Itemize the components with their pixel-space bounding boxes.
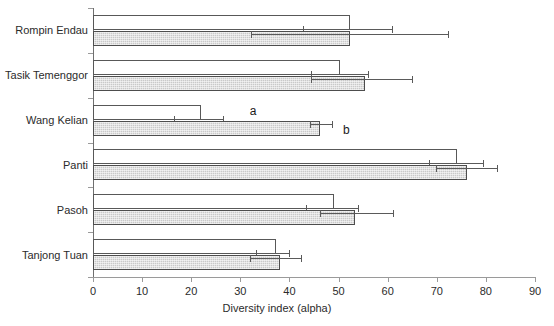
- error-bar-cap: [301, 255, 302, 262]
- bar-open-0: [93, 15, 350, 30]
- x-axis-tick-label: 90: [520, 285, 550, 298]
- error-bar-line: [436, 168, 497, 169]
- error-bar-cap: [320, 210, 321, 217]
- error-bar-cap: [310, 121, 311, 128]
- category-label-wang-kelian: Wang Kelian: [0, 114, 88, 126]
- x-axis-tick: [93, 277, 94, 282]
- error-bar-cap: [250, 255, 251, 262]
- error-bar-cap: [497, 165, 498, 172]
- x-axis-tick: [486, 277, 487, 282]
- bar-open-3: [93, 149, 457, 164]
- error-bar-cap: [448, 31, 449, 38]
- category-label-rompin-endau: Rompin Endau: [0, 24, 88, 36]
- category-label-pasoh: Pasoh: [0, 204, 88, 216]
- error-bar-cap: [289, 250, 290, 257]
- x-axis-tick-label: 30: [225, 285, 255, 298]
- error-bar-cap: [368, 71, 369, 78]
- error-bar-cap: [311, 76, 312, 83]
- bar-open-1: [93, 60, 340, 75]
- significance-label-b: b: [343, 124, 350, 136]
- error-bar-cap: [483, 160, 484, 167]
- category-label-tanjong-tuan: Tanjong Tuan: [0, 249, 88, 261]
- error-bar-line: [256, 253, 290, 254]
- bar-open-4: [93, 194, 334, 209]
- error-bar-line: [320, 213, 393, 214]
- category-label-panti: Panti: [0, 159, 88, 171]
- bar-open-2: [93, 105, 201, 120]
- x-axis-tick-label: 40: [274, 285, 304, 298]
- error-bar-line: [250, 258, 301, 259]
- error-bar-cap: [392, 26, 393, 33]
- category-label-tasik-temenggor: Tasik Temenggor: [0, 69, 88, 81]
- error-bar-line: [310, 124, 332, 125]
- x-axis-tick: [289, 277, 290, 282]
- significance-label-a: a: [250, 105, 257, 117]
- diversity-index-bar-chart: 0102030405060708090 Rompin EndauTasik Te…: [0, 0, 554, 326]
- x-axis-tick: [437, 277, 438, 282]
- x-axis-tick: [388, 277, 389, 282]
- x-axis-tick: [191, 277, 192, 282]
- x-axis-tick: [142, 277, 143, 282]
- x-axis-tick-label: 50: [324, 285, 354, 298]
- error-bar-cap: [436, 165, 437, 172]
- error-bar-line: [174, 119, 223, 120]
- error-bar-line: [251, 34, 448, 35]
- x-axis-title: Diversity index (alpha): [0, 302, 554, 314]
- x-axis-tick-label: 70: [422, 285, 452, 298]
- y-axis-tick: [88, 277, 93, 278]
- error-bar-cap: [332, 121, 333, 128]
- x-axis-tick: [535, 277, 536, 282]
- error-bar-cap: [393, 210, 394, 217]
- plot-area: ab: [93, 8, 535, 276]
- x-axis-tick-label: 60: [373, 285, 403, 298]
- error-bar-cap: [412, 76, 413, 83]
- error-bar-line: [311, 74, 368, 75]
- bar-open-5: [93, 239, 276, 254]
- error-bar-cap: [358, 205, 359, 212]
- error-bar-cap: [251, 31, 252, 38]
- x-axis-tick-label: 0: [78, 285, 108, 298]
- error-bar-line: [429, 163, 483, 164]
- x-axis-tick-label: 20: [176, 285, 206, 298]
- error-bar-line: [303, 29, 392, 30]
- error-bar-line: [306, 208, 358, 209]
- x-axis-tick: [339, 277, 340, 282]
- bar-filled-3: [93, 165, 467, 180]
- x-axis-tick-label: 80: [471, 285, 501, 298]
- error-bar-line: [311, 79, 412, 80]
- x-axis-line: [93, 277, 536, 278]
- bar-filled-4: [93, 210, 355, 225]
- x-axis-tick: [240, 277, 241, 282]
- x-axis-tick-label: 10: [127, 285, 157, 298]
- bar-filled-2: [93, 121, 320, 136]
